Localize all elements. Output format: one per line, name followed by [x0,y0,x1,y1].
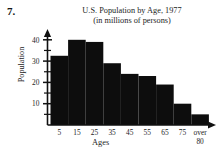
bar-45 [121,74,139,125]
bar-65 [156,85,174,125]
x-tick-label-over-80-second-line: 80 [196,137,204,146]
x-ticks-group: 515253545556575over80 [57,128,207,146]
bar-15 [68,40,86,125]
bar-35 [103,63,121,125]
x-axis-arrow [208,121,216,128]
y-axis-arrow [44,29,51,37]
bar-over-80 [191,114,209,125]
x-tick-label-5: 5 [57,128,61,137]
y-ticks-group: 10203040 [32,36,52,115]
x-tick-label-75: 75 [179,128,187,137]
y-tick-label-20: 20 [32,78,40,87]
x-tick-label-35: 35 [108,128,116,137]
bar-55 [139,76,157,125]
x-tick-label-over-80: over [194,128,208,137]
x-tick-label-55: 55 [144,128,152,137]
bar-25 [86,42,104,125]
bar-5 [51,56,69,125]
bar-chart-plot: 10203040 515253545556575over80 [0,0,224,156]
y-tick-label-10: 10 [32,99,40,108]
x-tick-label-65: 65 [161,128,169,137]
figure-container: 7. U.S. Population by Age, 1977 (in mill… [0,0,224,156]
bar-75 [174,104,192,125]
x-tick-label-25: 25 [91,128,99,137]
x-tick-label-15: 15 [73,128,81,137]
x-tick-label-45: 45 [126,128,134,137]
y-tick-label-40: 40 [32,36,40,45]
y-tick-label-30: 30 [32,57,40,66]
bars-group [51,40,209,125]
